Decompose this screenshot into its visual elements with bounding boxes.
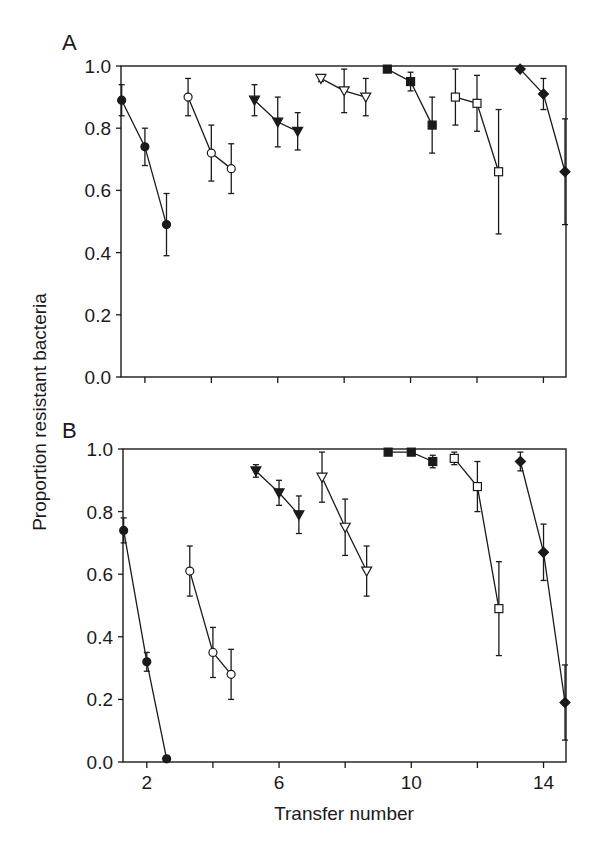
y-tick-label: 0.8 [87, 502, 113, 523]
data-point [227, 165, 235, 173]
data-point [118, 96, 126, 104]
figure: 0.00.20.40.60.81.0 0.00.20.40.60.81.0261… [0, 0, 602, 865]
series-open-circle [184, 78, 235, 193]
data-point [539, 547, 549, 557]
y-tick-label: 0.8 [85, 118, 111, 139]
series-filled-square [384, 448, 437, 468]
data-point [407, 448, 415, 456]
data-point [473, 483, 481, 491]
data-point [473, 99, 481, 107]
y-tick-label: 1.0 [85, 56, 111, 77]
series-filled-diamond [515, 452, 570, 740]
data-point [293, 127, 303, 136]
y-tick-label: 0.2 [87, 689, 113, 710]
y-tick-label: 0.6 [85, 180, 111, 201]
panel-b: 0.00.20.40.60.81.0261014 [87, 439, 570, 793]
x-tick-label: 10 [401, 772, 422, 793]
data-point [209, 648, 217, 656]
series-open-square [450, 452, 503, 655]
data-point [495, 605, 503, 613]
panel-a-label: A [62, 30, 77, 55]
x-tick-label: 2 [142, 772, 153, 793]
data-point [273, 118, 283, 127]
data-point [362, 567, 372, 576]
x-tick-label: 6 [274, 772, 285, 793]
data-point [450, 454, 458, 462]
data-point [495, 168, 503, 176]
panel-a: 0.00.20.40.60.81.0 [85, 56, 570, 388]
y-tick-label: 0.6 [87, 564, 113, 585]
data-point [162, 221, 170, 229]
panel-b-label: B [62, 418, 77, 443]
y-tick-label: 0.2 [85, 305, 111, 326]
data-point [515, 457, 525, 467]
data-point [451, 93, 459, 101]
y-tick-label: 0.4 [87, 627, 114, 648]
data-point [428, 121, 436, 129]
data-point [120, 526, 128, 534]
series-filled-circle [120, 518, 171, 763]
x-tick-label: 14 [533, 772, 555, 793]
data-point [407, 78, 415, 86]
y-tick-label: 1.0 [87, 439, 113, 460]
series-open-circle [186, 546, 235, 699]
y-tick-label: 0.0 [85, 367, 111, 388]
y-tick-label: 0.4 [85, 243, 112, 264]
data-point [316, 74, 326, 83]
data-point [361, 93, 371, 102]
y-axis-title: Proportion resistant bacteria [29, 293, 50, 531]
data-point [143, 658, 151, 666]
y-tick-label: 0.0 [87, 752, 113, 773]
data-point [340, 523, 350, 532]
series-open-triangle-down [316, 69, 371, 116]
data-point [186, 567, 194, 575]
series-filled-diamond [515, 64, 570, 225]
series-open-triangle-down [317, 452, 372, 596]
data-point [383, 65, 391, 73]
data-point [294, 511, 304, 520]
series-filled-triangle-down [250, 85, 303, 150]
series-filled-circle [118, 85, 171, 256]
data-point [141, 143, 149, 151]
series-filled-square [383, 65, 436, 153]
data-point [384, 448, 392, 456]
x-axis-title: Transfer number [274, 803, 414, 824]
data-point [163, 755, 171, 763]
data-point [317, 473, 327, 482]
data-point [227, 670, 235, 678]
data-point [560, 167, 570, 177]
series-open-square [451, 69, 502, 234]
data-point [560, 698, 570, 708]
data-point [429, 458, 437, 466]
data-point [184, 93, 192, 101]
data-point [207, 149, 215, 157]
series-filled-triangle-down [251, 465, 304, 534]
